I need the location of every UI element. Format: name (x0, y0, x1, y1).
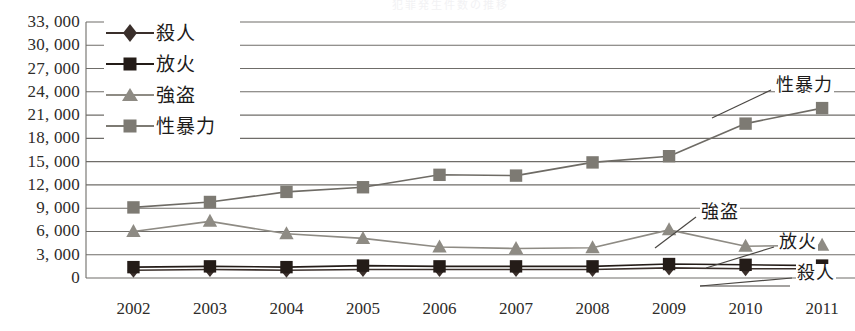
legend-label: 強盗 (156, 86, 196, 105)
legend-item-性暴力[interactable]: 性暴力 (104, 111, 240, 141)
diamond-icon (120, 23, 140, 43)
annotation-label: 強盗 (700, 203, 740, 221)
legend-label: 性暴力 (156, 117, 216, 136)
legend-marker-sample (104, 21, 156, 45)
x-axis-tick-label: 2008 (576, 300, 610, 317)
x-axis-tick-label: 2002 (116, 300, 150, 317)
square-icon (120, 116, 140, 136)
legend-marker-sample (104, 114, 156, 138)
chart-legend: 殺人放火強盗性暴力 (104, 18, 240, 150)
legend-label: 放火 (156, 55, 196, 74)
x-axis-tick-label: 2006 (423, 300, 457, 317)
square-icon (120, 54, 140, 74)
x-axis-tick-label: 2010 (729, 300, 763, 317)
x-axis-tick-label: 2003 (193, 300, 227, 317)
legend-marker-sample (104, 83, 156, 107)
annotation-label: 性暴力 (775, 76, 834, 94)
legend-item-放火[interactable]: 放火 (104, 49, 240, 79)
x-axis-tick-label: 2011 (805, 300, 838, 317)
x-axis-tick-label: 2004 (269, 300, 303, 317)
legend-label: 殺人 (156, 24, 196, 43)
triangle-icon (120, 85, 140, 105)
line-chart: 犯罪発生件数の推移 33, 00030, 00027, 00024, 00021… (0, 0, 855, 331)
legend-item-殺人[interactable]: 殺人 (104, 18, 240, 48)
x-axis-tick-label: 2005 (346, 300, 380, 317)
annotation-label: 放火 (778, 233, 818, 251)
annotation-label: 殺人 (796, 264, 836, 282)
x-axis-tick-label: 2007 (499, 300, 533, 317)
legend-item-強盗[interactable]: 強盗 (104, 80, 240, 110)
x-axis-tick-label: 2009 (652, 300, 686, 317)
legend-marker-sample (104, 52, 156, 76)
